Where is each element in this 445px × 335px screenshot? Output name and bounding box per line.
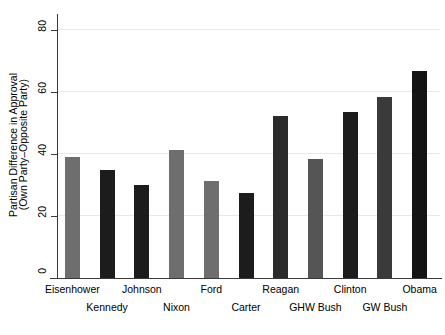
x-axis-category-labels: EisenhowerKennedyJohnsonNixonFordCarterR… (0, 279, 445, 335)
bar-carter (239, 193, 254, 278)
y-tick-label-0: 0 (37, 268, 48, 274)
x-label-gw-bush: GW Bush (315, 302, 445, 313)
bar-obama (412, 71, 427, 278)
y-axis-title: Partisan Difference in Approval (Own Par… (0, 0, 36, 290)
bar-chart: Partisan Difference in Approval (Own Par… (0, 0, 445, 335)
bar-clinton (343, 112, 358, 278)
plot-area (58, 18, 440, 278)
y-tick-label-40: 40 (37, 144, 48, 156)
x-label-obama: Obama (350, 284, 445, 295)
bar-eisenhower (65, 157, 80, 278)
bar-ford (204, 181, 219, 279)
y-tick-label-80: 80 (37, 20, 48, 32)
y-axis-line (57, 14, 58, 278)
y-tick-label-20: 20 (37, 206, 48, 218)
bar-nixon (169, 150, 184, 278)
bar-kennedy (100, 170, 115, 278)
bar-gw-bush (377, 97, 392, 278)
y-axis-title-line-2: (Own Party–Opposite Party) (18, 79, 29, 210)
bar-reagan (273, 116, 288, 279)
bar-ghw-bush (308, 159, 323, 278)
y-tick-label-60: 60 (37, 82, 48, 94)
bar-johnson (134, 185, 149, 278)
bar-series (58, 18, 440, 278)
